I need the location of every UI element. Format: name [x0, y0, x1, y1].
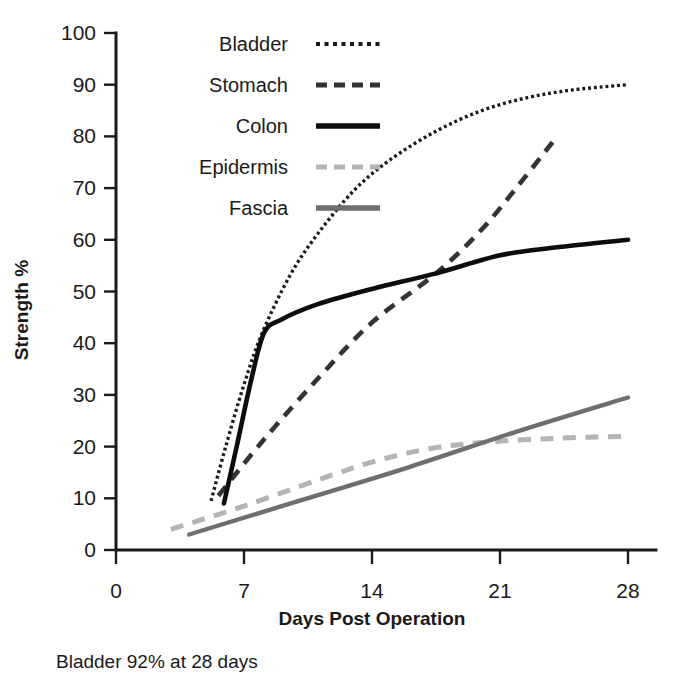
y-tick-label: 50 — [73, 280, 96, 303]
axis-layer: 010203040506070809010007142128 — [61, 21, 656, 602]
y-tick-label: 20 — [73, 435, 96, 458]
legend-item-bladder: Bladder — [219, 33, 380, 55]
x-tick-label: 0 — [110, 579, 122, 602]
chart-caption: Bladder 92% at 28 days — [56, 651, 258, 672]
x-axis-title: Days Post Operation — [279, 608, 466, 629]
y-tick-label: 80 — [73, 124, 96, 147]
legend-label: Fascia — [229, 197, 289, 219]
legend-label: Stomach — [209, 74, 288, 96]
legend-item-colon: Colon — [236, 115, 380, 137]
x-tick-label: 14 — [360, 579, 384, 602]
line-chart-svg: 010203040506070809010007142128 BladderSt… — [0, 0, 679, 681]
y-tick-label: 90 — [73, 73, 96, 96]
y-tick-label: 10 — [73, 486, 96, 509]
y-tick-label: 30 — [73, 383, 96, 406]
x-tick-label: 28 — [616, 579, 639, 602]
chart-figure: 010203040506070809010007142128 BladderSt… — [0, 0, 679, 681]
y-tick-label: 70 — [73, 176, 96, 199]
y-tick-label: 100 — [61, 21, 96, 44]
y-tick-label: 60 — [73, 228, 96, 251]
series-line-fascia — [189, 397, 628, 534]
legend-label: Epidermis — [199, 156, 288, 178]
legend-item-fascia: Fascia — [229, 197, 380, 219]
text-layer: Strength %Days Post OperationBladder 92%… — [11, 260, 465, 672]
x-tick-label: 7 — [238, 579, 250, 602]
legend-item-stomach: Stomach — [209, 74, 380, 96]
legend-item-epidermis: Epidermis — [199, 156, 380, 178]
y-tick-label: 0 — [84, 538, 96, 561]
series-layer — [171, 85, 628, 535]
series-line-epidermis — [171, 436, 628, 529]
legend-label: Bladder — [219, 33, 288, 55]
x-tick-label: 21 — [488, 579, 511, 602]
legend-label: Colon — [236, 115, 288, 137]
legend-layer: BladderStomachColonEpidermisFascia — [199, 33, 380, 219]
y-axis-title: Strength % — [11, 260, 32, 360]
y-tick-label: 40 — [73, 331, 96, 354]
